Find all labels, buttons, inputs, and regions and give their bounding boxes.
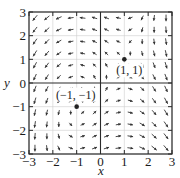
field-arrow: [116, 28, 121, 31]
field-arrow: [141, 51, 144, 56]
field-arrow: [68, 64, 73, 67]
field-arrow: [139, 147, 145, 150]
field-arrow: [92, 123, 96, 126]
field-arrow: [92, 135, 97, 138]
field-arrow: [57, 122, 60, 127]
equilibrium-point-dot: [122, 57, 127, 62]
field-arrow: [165, 15, 168, 22]
field-arrow: [117, 52, 120, 55]
field-arrow: [80, 17, 86, 20]
field-arrow: [116, 147, 122, 150]
field-arrow: [45, 110, 48, 116]
field-arrow: [33, 86, 36, 92]
field-arrow: [34, 145, 37, 152]
field-arrow: [140, 123, 145, 126]
field-arrow: [81, 123, 85, 126]
field-arrow: [33, 62, 36, 68]
field-arrow: [68, 40, 73, 43]
field-arrow: [128, 88, 132, 91]
field-arrow: [46, 145, 49, 151]
field-arrow: [45, 98, 48, 104]
field-arrow: [116, 40, 120, 43]
field-arrow: [165, 26, 168, 33]
field-arrow: [104, 135, 109, 138]
field-arrow: [68, 17, 74, 20]
field-arrow: [165, 62, 168, 68]
x-tick-label: −1: [70, 154, 84, 169]
equilibrium-point-label: (1, 1): [116, 63, 142, 77]
field-arrow: [80, 28, 85, 31]
equilibrium-point-dot: [74, 104, 79, 109]
field-arrow: [140, 135, 145, 138]
y-tick-label: 0: [20, 76, 27, 91]
x-tick-label: 3: [169, 154, 176, 169]
field-arrow: [68, 76, 72, 79]
y-axis-label: y: [2, 75, 10, 90]
field-arrow: [116, 123, 121, 126]
y-tick-label: −3: [12, 147, 26, 162]
field-arrow: [44, 16, 49, 20]
field-arrow: [140, 99, 144, 103]
field-arrow: [105, 52, 108, 55]
field-arrow: [104, 147, 109, 150]
field-arrow: [80, 40, 85, 43]
field-arrow: [104, 29, 109, 32]
y-tick-label: 2: [20, 28, 27, 43]
field-arrow: [153, 51, 156, 57]
field-arrow: [33, 15, 38, 20]
field-arrow: [80, 147, 85, 150]
field-arrow: [92, 28, 97, 31]
field-arrow: [33, 74, 36, 80]
field-arrow: [128, 123, 133, 126]
field-arrow: [153, 15, 156, 21]
field-arrow: [45, 63, 49, 68]
field-arrow: [56, 17, 62, 20]
field-arrow: [45, 51, 49, 56]
field-arrow: [165, 86, 168, 92]
field-arrow: [104, 17, 109, 20]
field-arrow: [33, 39, 37, 45]
field-arrow: [128, 17, 132, 20]
field-arrow: [57, 63, 61, 67]
field-arrow: [45, 75, 48, 80]
field-arrow: [165, 50, 168, 56]
field-arrow: [33, 50, 37, 56]
field-arrow: [164, 133, 168, 139]
zero-axes: [29, 12, 172, 154]
field-arrow: [105, 75, 108, 79]
field-arrow: [80, 135, 85, 138]
field-arrow: [104, 40, 108, 43]
field-arrow: [140, 87, 144, 91]
field-arrow: [141, 39, 144, 44]
field-arrow: [164, 145, 169, 150]
field-arrow: [153, 62, 156, 68]
field-arrow: [152, 122, 156, 127]
field-arrow: [34, 133, 37, 140]
field-arrow: [93, 111, 96, 114]
y-tick-label: −1: [12, 99, 26, 114]
field-arrow: [128, 99, 133, 102]
field-arrow: [33, 98, 36, 104]
field-arrow: [57, 75, 61, 79]
field-arrow: [69, 123, 72, 126]
field-arrow: [56, 52, 61, 55]
field-arrow: [45, 86, 48, 91]
field-arrow: [164, 98, 167, 104]
field-arrow: [80, 52, 85, 55]
field-arrow: [92, 40, 97, 43]
y-tick-label: 3: [20, 5, 27, 20]
x-tick-label: 2: [145, 154, 152, 169]
field-arrow: [68, 52, 73, 55]
vector-field-plot: −3−2−10123 −3−2−10123 (1, 1)(−1, −1) x y: [0, 0, 180, 178]
field-arrow: [44, 28, 49, 32]
field-arrow: [116, 111, 121, 114]
field-arrow: [152, 110, 156, 115]
field-arrow: [152, 146, 157, 150]
y-tick-label: 1: [20, 52, 27, 67]
field-arrow: [105, 63, 107, 67]
field-arrow: [153, 86, 156, 91]
field-arrow: [92, 147, 97, 150]
field-arrow: [116, 88, 120, 91]
field-arrow: [153, 74, 156, 79]
field-arrow: [69, 135, 73, 137]
